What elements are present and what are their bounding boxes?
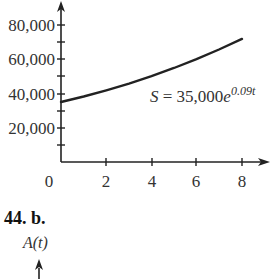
y-tick-label-80000: 80,000 xyxy=(8,16,55,35)
y-tick-label-60000: 60,000 xyxy=(8,50,55,69)
y-tick-label-40000: 40,000 xyxy=(8,85,55,104)
x-tick-label-0: 0 xyxy=(45,172,54,191)
x-tick-label-2: 2 xyxy=(102,172,111,191)
x-tick-label-8: 8 xyxy=(238,172,247,191)
next-axis-label: A(t) xyxy=(23,234,48,252)
x-tick-label-4: 4 xyxy=(148,172,157,191)
curve-equation-label: S = 35,000e0.09t xyxy=(150,84,256,106)
x-tick-label-6: 6 xyxy=(192,172,201,191)
problem-number: 44. b. xyxy=(4,208,46,229)
y-tick-label-20000: 20,000 xyxy=(8,119,55,138)
